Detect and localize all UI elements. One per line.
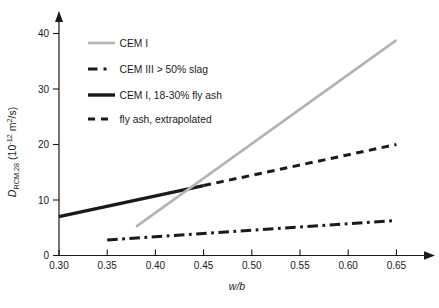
legend-label-cem-i-18-30-fly-ash: CEM I, 18-30% fly ash [120, 90, 223, 101]
x-tick-label: 0.65 [387, 260, 407, 271]
x-tick-label: 0.60 [338, 260, 358, 271]
x-axis-label: w/b [229, 280, 246, 292]
x-tick-label: 0.30 [49, 260, 69, 271]
legend-label-fly-ash-extrapolated: fly ash, extrapolated [120, 114, 212, 125]
line-chart-figure: 0102030400.300.350.400.450.500.550.600.6… [0, 0, 439, 308]
x-tick-label: 0.50 [242, 260, 262, 271]
x-tick-label: 0.55 [290, 260, 310, 271]
y-tick-label: 30 [38, 84, 50, 95]
x-tick-label: 0.45 [194, 260, 214, 271]
x-tick-label: 0.35 [97, 260, 117, 271]
y-tick-label: 20 [38, 139, 50, 150]
legend-label-cem-iii-50-slag: CEM III > 50% slag [120, 64, 209, 75]
legend-label-cem-i: CEM I [120, 38, 149, 49]
y-tick-label: 40 [38, 28, 50, 39]
x-tick-label: 0.40 [146, 260, 166, 271]
y-tick-label: 10 [38, 195, 50, 206]
chart-canvas: 0102030400.300.350.400.450.500.550.600.6… [0, 0, 439, 308]
